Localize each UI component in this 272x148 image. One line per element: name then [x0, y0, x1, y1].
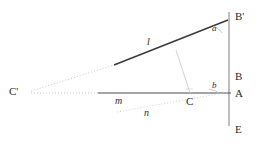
line-label-l: l [147, 37, 150, 47]
perpendicular-C-to-line-l [176, 50, 190, 93]
angle-label-b: b [212, 81, 217, 90]
point-label-b-prime: B' [235, 11, 244, 22]
line-l-solid [114, 20, 228, 65]
point-label-b: B [235, 71, 242, 82]
figure-canvas [0, 0, 272, 148]
angle-label-a: a [212, 24, 217, 33]
line-l-dotted-extension [31, 65, 114, 91]
point-label-a: A [235, 88, 243, 99]
line-n-dotted [117, 92, 229, 112]
point-label-e: E [235, 124, 242, 135]
point-label-c-prime: C' [9, 86, 18, 97]
line-label-n: n [144, 108, 149, 118]
point-label-c: C [186, 96, 193, 107]
geometry-figure: B' B A E C C' l m n a b [0, 0, 272, 148]
line-label-m: m [115, 96, 122, 106]
